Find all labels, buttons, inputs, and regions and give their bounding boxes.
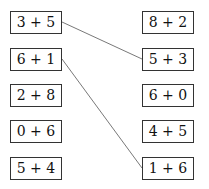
right-box[interactable]: 4 + 5 — [142, 120, 194, 143]
right-box[interactable]: 1 + 6 — [142, 157, 194, 180]
left-box[interactable]: 2 + 8 — [10, 84, 62, 107]
connection-line — [62, 22, 142, 59]
left-box[interactable]: 6 + 1 — [10, 48, 62, 71]
right-box[interactable]: 6 + 0 — [142, 84, 194, 107]
right-box[interactable]: 5 + 3 — [142, 48, 194, 71]
right-box[interactable]: 8 + 2 — [142, 11, 194, 34]
left-box[interactable]: 0 + 6 — [10, 120, 62, 143]
left-box[interactable]: 5 + 4 — [10, 157, 62, 180]
connection-line — [62, 59, 142, 168]
left-box[interactable]: 3 + 5 — [10, 11, 62, 34]
